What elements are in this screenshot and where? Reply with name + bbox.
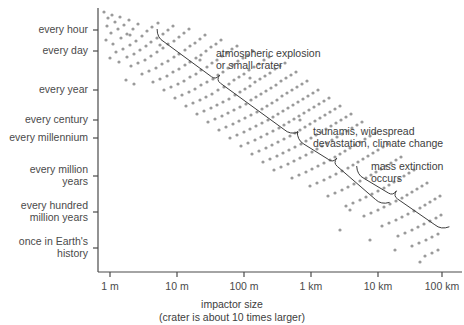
data-point [276, 112, 279, 115]
data-point [161, 46, 164, 49]
data-point [316, 88, 319, 91]
data-point [286, 162, 289, 165]
data-point [396, 234, 399, 237]
data-point [125, 32, 128, 35]
data-point [198, 58, 201, 61]
data-point [304, 170, 307, 173]
data-point [287, 148, 290, 151]
data-point [121, 47, 124, 50]
data-point [183, 48, 186, 51]
data-point [203, 33, 206, 36]
data-point [198, 98, 201, 101]
data-point [438, 194, 441, 197]
data-point [333, 191, 336, 194]
data-point [268, 71, 271, 74]
data-point [358, 179, 361, 182]
data-point [249, 113, 252, 116]
data-point [366, 154, 369, 157]
data-point [298, 128, 301, 131]
data-point [149, 40, 152, 43]
x-axis-subtitle: (crater is about 10 times larger) [0, 311, 464, 324]
data-point [171, 70, 174, 73]
data-point [136, 61, 139, 64]
x-axis-label-2: 100 m [214, 280, 274, 292]
data-point [162, 88, 165, 91]
data-point [114, 50, 117, 53]
data-point [145, 29, 148, 32]
data-point [410, 190, 413, 193]
data-point [369, 211, 372, 214]
data-point [232, 108, 235, 111]
y-axis-label-1: every day [2, 45, 88, 57]
data-point [351, 201, 354, 204]
y-axis-label-5: every million years [2, 164, 88, 187]
data-point [323, 113, 326, 116]
data-point [258, 77, 261, 80]
data-point [343, 149, 346, 152]
data-point [253, 80, 256, 83]
data-point [215, 103, 218, 106]
data-point [202, 109, 205, 112]
data-point [322, 99, 325, 102]
data-point [249, 98, 252, 101]
data-point [199, 53, 202, 56]
data-point [271, 115, 274, 118]
data-point [108, 56, 111, 59]
data-point [161, 32, 164, 35]
data-point [304, 153, 307, 156]
data-point [356, 160, 359, 163]
data-point [194, 72, 197, 75]
annotation-atmospheric: atmospheric explosion or small crater [216, 47, 320, 71]
data-point [232, 78, 235, 81]
data-point [117, 60, 120, 63]
data-point [360, 120, 363, 123]
data-point [113, 20, 116, 23]
data-point [169, 85, 172, 88]
data-point [289, 73, 292, 76]
data-point [387, 221, 390, 224]
data-point [311, 91, 314, 94]
data-point [298, 118, 301, 121]
data-point [158, 43, 161, 46]
data-point [173, 96, 176, 99]
annotation-tsunami: tsunamis, widespread devastation, climat… [313, 125, 443, 149]
data-point [254, 124, 257, 127]
data-point [346, 166, 349, 169]
data-point [254, 95, 257, 98]
x-axis-label-3: 1 km [281, 280, 341, 292]
x-axis-title: impactor size [0, 298, 464, 311]
data-point [109, 31, 112, 34]
data-point [368, 238, 371, 241]
data-point [349, 112, 352, 115]
data-point [205, 65, 208, 68]
data-point [410, 244, 413, 247]
data-point [300, 82, 303, 85]
data-point [303, 125, 306, 128]
impact-frequency-chart: every hourevery dayevery yearevery centu… [0, 0, 464, 325]
data-point [199, 83, 202, 86]
data-point [147, 69, 150, 72]
data-point [155, 50, 158, 53]
data-point [265, 132, 268, 135]
data-point [328, 175, 331, 178]
data-point [260, 107, 263, 110]
data-point [204, 95, 207, 98]
data-point [285, 91, 288, 94]
data-point [423, 203, 426, 206]
data-point [195, 112, 198, 115]
data-point [327, 96, 330, 99]
data-point [393, 248, 396, 251]
data-point [272, 168, 275, 171]
data-point [380, 224, 383, 227]
data-point [424, 238, 427, 241]
data-point [352, 182, 355, 185]
data-point [104, 38, 107, 41]
data-point [132, 82, 135, 85]
data-point [242, 72, 245, 75]
data-point [302, 111, 305, 114]
data-point [322, 178, 325, 181]
brace-atmospheric [157, 29, 298, 133]
data-point [177, 67, 180, 70]
data-point [264, 146, 267, 149]
data-point [205, 80, 208, 83]
